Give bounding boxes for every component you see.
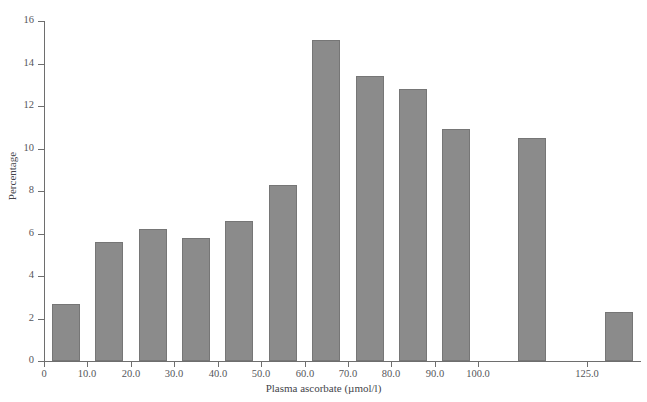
histogram-bar	[52, 304, 80, 361]
y-tick-label: 16	[0, 15, 34, 26]
x-tick-label: 30.0	[149, 369, 199, 380]
y-tick-label: 4	[0, 270, 34, 281]
x-tick-label: 50.0	[236, 369, 286, 380]
histogram-bar	[518, 138, 546, 361]
histogram-bar	[442, 129, 470, 361]
y-tick-mark	[38, 191, 44, 192]
x-tick-label: 125.0	[562, 369, 612, 380]
y-tick-label: 0	[0, 355, 34, 366]
x-tick-mark	[131, 362, 132, 367]
histogram-bar	[225, 221, 253, 361]
histogram-bar	[139, 229, 167, 361]
y-tick-label: 6	[0, 228, 34, 239]
y-tick-label: 2	[0, 313, 34, 324]
x-tick-label: 100.0	[453, 369, 503, 380]
x-tick-mark	[435, 362, 436, 367]
x-tick-mark	[587, 362, 588, 367]
x-tick-mark	[218, 362, 219, 367]
y-axis-title: Percentage	[6, 126, 18, 226]
x-tick-label: 10.0	[62, 369, 112, 380]
x-axis-line	[44, 361, 641, 362]
x-tick-mark	[261, 362, 262, 367]
histogram-bar	[356, 76, 384, 361]
histogram-figure: 0246810121416 010.020.030.040.050.060.07…	[0, 0, 647, 402]
histogram-bar	[312, 40, 340, 361]
x-tick-mark	[87, 362, 88, 367]
y-tick-mark	[38, 106, 44, 107]
x-tick-mark	[44, 362, 45, 367]
histogram-bar	[182, 238, 210, 361]
x-tick-mark	[174, 362, 175, 367]
y-tick-mark	[38, 64, 44, 65]
y-tick-mark	[38, 276, 44, 277]
histogram-bar	[399, 89, 427, 361]
figure-title-clipped	[0, 0, 647, 7]
y-tick-mark	[38, 21, 44, 22]
x-tick-mark	[478, 362, 479, 367]
histogram-bar	[605, 312, 633, 361]
y-axis-line	[44, 21, 45, 361]
x-tick-mark	[391, 362, 392, 367]
x-tick-mark	[305, 362, 306, 367]
y-tick-mark	[38, 234, 44, 235]
x-tick-label: 80.0	[366, 369, 416, 380]
y-tick-mark	[38, 149, 44, 150]
histogram-bar	[269, 185, 297, 361]
histogram-bar	[95, 242, 123, 361]
x-tick-mark	[348, 362, 349, 367]
y-tick-mark	[38, 319, 44, 320]
y-tick-label: 14	[0, 58, 34, 69]
y-tick-label: 12	[0, 100, 34, 111]
x-axis-title: Plasma ascorbate (µmol/l)	[0, 382, 647, 394]
